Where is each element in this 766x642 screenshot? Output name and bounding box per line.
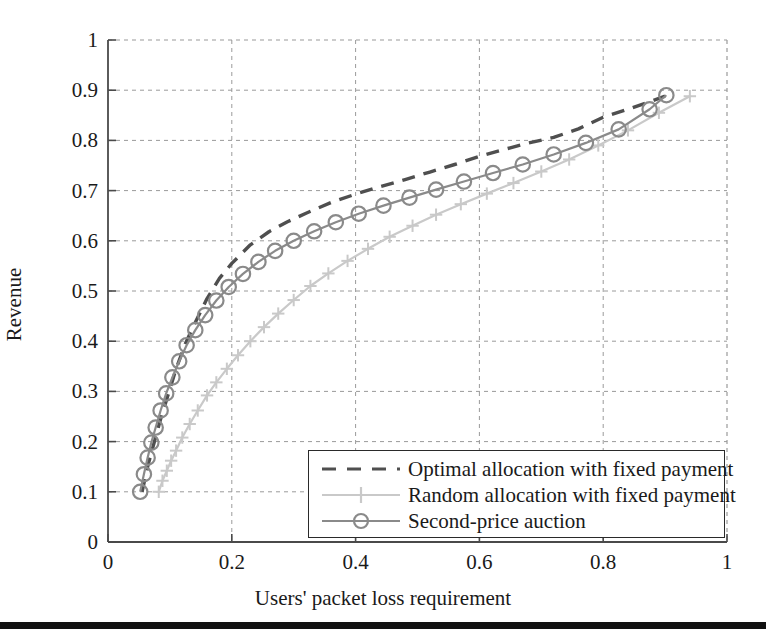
y-tick-label: 0 [40, 532, 98, 553]
legend-sample-circle-marker-line [318, 509, 404, 533]
revenue-chart-figure: 00.10.20.30.40.50.60.70.80.91 00.20.40.6… [0, 0, 766, 642]
y-tick-label: 0.7 [40, 180, 98, 201]
y-tick-label: 0.6 [40, 230, 98, 251]
x-tick-label: 1 [722, 552, 733, 573]
legend-label-optimal-allocation: Optimal allocation with fixed payment [404, 459, 733, 480]
legend-item-random-allocation: Random allocation with fixed payment [309, 482, 724, 508]
y-axis-title: Revenue [2, 268, 27, 341]
x-tick-label: 0.8 [590, 552, 616, 573]
legend-item-second-price-auction: Second-price auction [309, 508, 724, 534]
x-tick-label: 0.2 [219, 552, 245, 573]
legend-label-random-allocation: Random allocation with fixed payment [404, 485, 736, 506]
y-tick-label: 0.3 [40, 381, 98, 402]
page-scan-artifact-bar [0, 622, 766, 629]
legend-sample-dashed-line [318, 457, 404, 481]
x-tick-label: 0.4 [342, 552, 368, 573]
y-tick-label: 0.5 [40, 281, 98, 302]
y-tick-label: 0.8 [40, 130, 98, 151]
x-axis-title: Users' packet loss requirement [0, 586, 766, 611]
plot-canvas [0, 0, 766, 642]
y-tick-label: 0.9 [40, 80, 98, 101]
y-tick-label: 0.1 [40, 481, 98, 502]
legend-label-second-price-auction: Second-price auction [404, 511, 586, 532]
legend-item-optimal-allocation: Optimal allocation with fixed payment [309, 456, 724, 482]
y-tick-label: 1 [40, 30, 98, 51]
legend-sample-plus-marker-line [318, 483, 404, 507]
chart-legend: Optimal allocation with fixed payment Ra… [308, 450, 725, 538]
y-tick-label: 0.4 [40, 331, 98, 352]
y-tick-label: 0.2 [40, 431, 98, 452]
x-tick-label: 0.6 [466, 552, 492, 573]
x-tick-label: 0 [103, 552, 114, 573]
